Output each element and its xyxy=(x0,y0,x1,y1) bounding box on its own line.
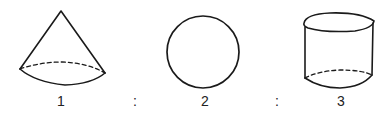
sphere-label: 2 xyxy=(201,94,209,108)
cone-shape xyxy=(20,11,105,85)
ratio-separator: : xyxy=(133,94,137,108)
cylinder-label: 3 xyxy=(337,94,345,108)
cone-label: 1 xyxy=(57,94,65,108)
sphere-shape xyxy=(167,16,239,88)
ratio-separator: : xyxy=(275,94,279,108)
cylinder-shape xyxy=(304,13,374,88)
